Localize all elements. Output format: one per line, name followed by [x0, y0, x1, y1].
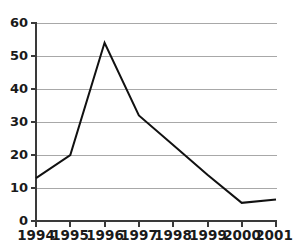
y-tick-label-20: 20: [10, 147, 28, 162]
y-tick-label-10: 10: [10, 180, 28, 195]
x-tick-label-1994: 1994: [17, 227, 55, 243]
y-tick-label-30: 30: [10, 114, 28, 129]
y-tick-label-0: 0: [19, 213, 28, 228]
x-tick-label-2001: 2001: [255, 227, 293, 243]
line-chart: 60 50 40 30 20 10 0 1994 1995 1996 1997 …: [0, 0, 295, 247]
x-tick-label-1996: 1996: [86, 227, 124, 243]
x-tick-label-1999: 1999: [189, 227, 227, 243]
y-tick-label-50: 50: [10, 48, 28, 63]
y-tick-label-40: 40: [10, 81, 28, 96]
x-tick-label-1997: 1997: [120, 227, 158, 243]
x-tick-label-1995: 1995: [51, 227, 89, 243]
chart-canvas: 60 50 40 30 20 10 0 1994 1995 1996 1997 …: [0, 0, 295, 247]
x-tick-label-1998: 1998: [154, 227, 192, 243]
y-tick-label-60: 60: [10, 15, 28, 30]
x-tick-labels: 1994 1995 1996 1997 1998 1999 2000 2001: [17, 227, 293, 243]
